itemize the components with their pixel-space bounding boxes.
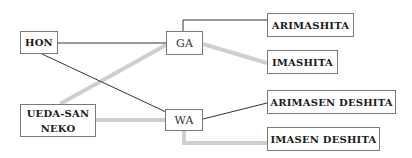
node-hon-label: HON [25, 35, 53, 50]
node-arimashita: ARIMASHITA [267, 13, 354, 37]
edge-ga-imashita [203, 44, 267, 63]
edge-ueda-ga [60, 45, 166, 104]
node-wa-label: WA [174, 113, 193, 128]
node-ueda-label-line2: NEKO [41, 121, 76, 136]
node-ueda-san-neko: UEDA-SAN NEKO [20, 104, 96, 137]
edge-ga-arimashita [183, 20, 267, 31]
node-imashita-label: IMASHITA [272, 55, 333, 70]
node-imashita: IMASHITA [267, 50, 338, 74]
node-imasen-deshita: IMASEN DESHITA [267, 127, 380, 151]
node-ga-label: GA [176, 36, 193, 51]
node-arimashita-label: ARIMASHITA [272, 18, 350, 33]
node-wa: WA [165, 109, 203, 131]
edge-wa-imasen-deshita [184, 130, 267, 143]
edge-wa-arimasen-deshita [203, 103, 267, 119]
node-ga: GA [166, 31, 203, 55]
node-hon: HON [20, 31, 58, 54]
node-imasen-deshita-label: IMASEN DESHITA [270, 132, 376, 147]
node-arimasen-deshita: ARIMASEN DESHITA [267, 90, 396, 114]
node-ueda-label-line1: UEDA-SAN [27, 106, 90, 121]
node-arimasen-deshita-label: ARIMASEN DESHITA [270, 95, 393, 110]
